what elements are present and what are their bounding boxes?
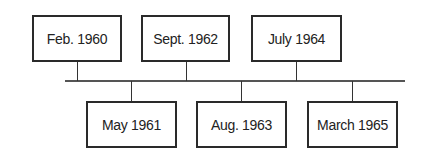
event-box-bottom-3: March 1965: [307, 101, 398, 148]
event-label: July 1964: [268, 31, 325, 47]
event-box-top-2: Sept. 1962: [141, 15, 230, 62]
connector: [77, 62, 78, 81]
event-label: Feb. 1960: [47, 31, 107, 47]
event-label: May 1961: [102, 117, 161, 133]
event-box-bottom-1: May 1961: [86, 101, 177, 148]
connector: [186, 62, 187, 81]
event-box-top-1: Feb. 1960: [32, 15, 122, 62]
connector: [352, 81, 353, 102]
event-label: March 1965: [317, 117, 388, 133]
event-label: Aug. 1963: [211, 117, 272, 133]
timeline-axis: [65, 80, 405, 82]
event-label: Sept. 1962: [153, 31, 218, 47]
event-box-bottom-2: Aug. 1963: [196, 101, 287, 148]
connector: [131, 81, 132, 102]
connector: [241, 81, 242, 102]
connector: [296, 62, 297, 81]
event-box-top-3: July 1964: [251, 15, 342, 62]
